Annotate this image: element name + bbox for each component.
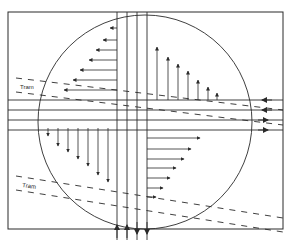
tram-label-upper: Tram [20,84,34,90]
influence-circle [38,15,252,229]
top-right-arrows [157,47,217,100]
tram-tracks-lower [16,176,283,232]
bottom-left-arrows [48,128,108,182]
vertical-lanes [117,12,147,240]
diagram-frame [8,12,283,229]
tram-label-lower: Tram [22,182,36,190]
horizontal-lane-arrows [258,100,272,130]
bottom-right-arrows [147,138,200,197]
vertical-lane-arrows [117,222,147,238]
top-left-arrows [64,28,117,90]
tram-tracks-upper [16,78,283,125]
horizontal-lanes [8,100,283,130]
intersection-diagram: Tram Tram [0,0,303,246]
